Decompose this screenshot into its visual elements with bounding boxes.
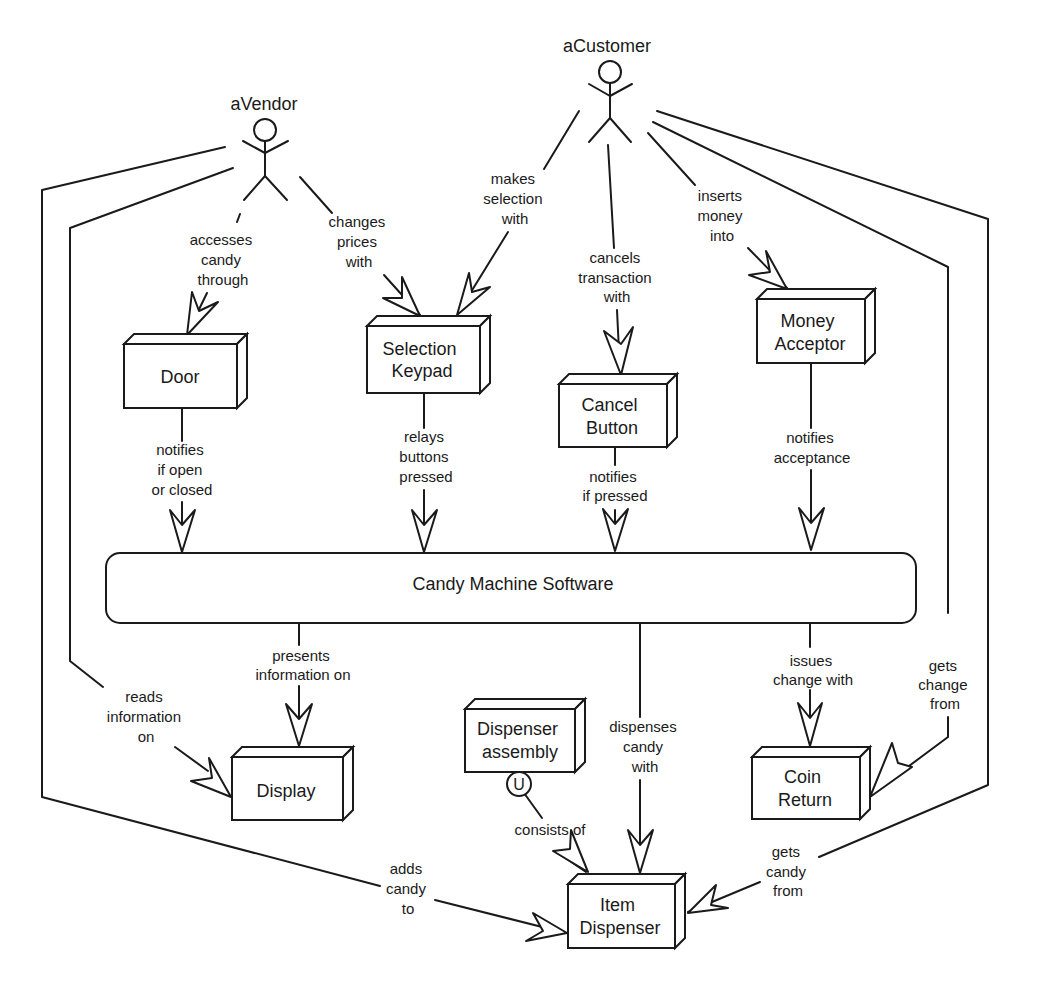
edge-label-notifies-acceptance: notifies acceptance: [774, 429, 851, 466]
edge-label-cancel-notifies: notifies if pressed: [582, 468, 647, 504]
candy-machine-diagram: aVendor aCustomer: [0, 0, 1037, 986]
edge-label-relays-buttons: relays buttons pressed: [399, 428, 452, 485]
edge-label-makes-selection: makes selection with: [483, 170, 546, 227]
edge-label-presents-information: presents information on: [255, 647, 350, 683]
node-display-label: Display: [256, 781, 315, 801]
actor-vendor-label: aVendor: [230, 94, 297, 114]
stick-figure-icon: [243, 119, 288, 200]
node-candy-machine-software-label: Candy Machine Software: [412, 574, 613, 594]
stick-figure-icon: [589, 61, 632, 142]
edge-label-gets-candy: gets candy from: [766, 843, 810, 899]
node-cancel-button[interactable]: Cancel Button: [559, 374, 677, 447]
actor-customer-label: aCustomer: [563, 36, 651, 56]
node-door[interactable]: Door: [124, 334, 247, 408]
node-selection-keypad[interactable]: Selection Keypad: [367, 316, 490, 393]
edge-label-reads-information: reads information on: [107, 688, 185, 745]
actor-customer[interactable]: aCustomer: [563, 36, 651, 142]
edge-label-consists-of: consists of: [515, 821, 587, 838]
node-item-dispenser[interactable]: Item Dispenser: [568, 874, 685, 948]
node-door-label: Door: [160, 367, 199, 387]
uses-badge-icon: U: [507, 772, 531, 796]
node-money-acceptor[interactable]: Money Acceptor: [757, 289, 875, 363]
edge-label-gets-change: gets change from: [918, 657, 971, 712]
svg-text:U: U: [513, 776, 525, 793]
node-candy-machine-software[interactable]: Candy Machine Software: [106, 553, 916, 623]
actor-vendor[interactable]: aVendor: [230, 94, 297, 200]
edge-label-issues-change: issues change with: [773, 652, 853, 688]
edge-label-accesses: accesses candy through: [190, 231, 257, 288]
edge-label-changes-prices: changes prices with: [329, 213, 390, 270]
edge-label-cancels-transaction: cancels transaction with: [578, 249, 656, 305]
edge-label-dispenses-candy: dispenses candy with: [609, 718, 681, 775]
node-dispenser-assembly[interactable]: Dispenser assembly U: [465, 699, 585, 796]
edge-label-door-notifies: notifies if open or closed: [152, 441, 213, 498]
node-display[interactable]: Display: [232, 747, 353, 820]
node-coin-return[interactable]: Coin Return: [752, 747, 870, 819]
edge-label-adds-candy: adds candy to: [386, 860, 430, 917]
edge-label-inserts-money: inserts money into: [697, 187, 746, 244]
